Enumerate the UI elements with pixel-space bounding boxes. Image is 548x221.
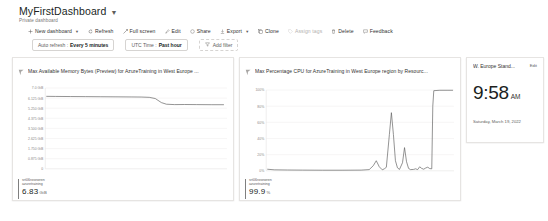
time-range-filter[interactable]: UTC Time : Past hour (125, 39, 187, 51)
auto-refresh-value: Every 5 minutes (70, 42, 108, 48)
pin-icon (245, 62, 252, 80)
auto-refresh-label: Auto refresh : (38, 42, 68, 48)
edit-button[interactable]: Edit (165, 28, 181, 34)
tile-header: Max Available Memory Bytes (Preview) for… (13, 58, 233, 82)
edit-label: Edit (172, 28, 181, 34)
page-header: MyFirstDashboard ▼ Private dashboard (0, 0, 548, 23)
chevron-down-icon[interactable]: ▼ (75, 29, 79, 34)
share-label: Share (197, 28, 211, 34)
svg-text:20%: 20% (257, 153, 264, 157)
clock-title: W. Europe Stand... (473, 63, 515, 69)
cpu-chart-plot[interactable]: 100% 80% 60% 40% 20% 0% (242, 82, 456, 175)
legend-value-number: 6.83 (22, 187, 38, 196)
assign-tags-label: Assign tags (295, 28, 322, 34)
clone-icon (258, 29, 263, 34)
svg-text:0.875 GiB: 0.875 GiB (28, 157, 44, 161)
export-label: Export (227, 28, 242, 34)
share-icon (190, 29, 195, 34)
clock-date: Saturday, March 19, 2022 (473, 119, 537, 124)
legend-value-number: 99.9 (249, 187, 265, 196)
tile-title: Max Percentage CPU for AzureTraining in … (255, 68, 428, 74)
clock-header: W. Europe Stand... Edit (473, 63, 537, 69)
svg-text:5.250 GiB: 5.250 GiB (28, 107, 44, 111)
svg-text:0%: 0% (259, 169, 264, 173)
feedback-label: Feedback (370, 28, 393, 34)
svg-text:60%: 60% (257, 121, 264, 125)
memory-chart-legend: srt06rosewren azuretraining 6.83GiB (13, 176, 233, 200)
delete-button[interactable]: Delete (331, 28, 353, 34)
tile-clock[interactable]: W. Europe Stand... Edit 9:58AM Saturday,… (466, 57, 544, 143)
new-dashboard-label: New dashboard (35, 28, 72, 34)
new-dashboard-button[interactable]: New dashboard ▼ (28, 28, 79, 34)
svg-text:40%: 40% (257, 137, 264, 141)
share-button[interactable]: Share (190, 28, 211, 34)
clone-label: Clone (265, 28, 279, 34)
svg-text:3.500 GiB: 3.500 GiB (28, 127, 44, 131)
edit-icon (165, 29, 170, 34)
refresh-label: Refresh (95, 28, 114, 34)
delete-icon (331, 29, 336, 34)
plus-icon (28, 29, 33, 34)
dashboard-tiles: Max Available Memory Bytes (Preview) for… (0, 57, 548, 201)
legend-value-unit: % (266, 190, 270, 195)
time-range-value: Past hour (159, 42, 182, 48)
svg-text:6.125 GiB: 6.125 GiB (28, 97, 44, 101)
fullscreen-icon (123, 29, 128, 34)
svg-text:7.0 GiB: 7.0 GiB (32, 86, 44, 90)
legend-value-unit: GiB (39, 190, 47, 195)
auto-refresh-filter[interactable]: Auto refresh : Every 5 minutes (32, 39, 114, 51)
page-title: MyFirstDashboard (19, 5, 106, 17)
feedback-icon (363, 29, 368, 34)
add-filter-label: Add filter (213, 42, 233, 48)
feedback-button[interactable]: Feedback (363, 28, 393, 34)
tag-icon (288, 29, 293, 34)
legend-value: 6.83GiB (22, 187, 228, 196)
tile-cpu-chart[interactable]: Max Percentage CPU for AzureTraining in … (239, 57, 461, 201)
legend-color-swatch (18, 179, 19, 199)
memory-chart-plot[interactable]: 7.0 GiB 6.125 GiB 5.250 GiB 4.375 GiB 3.… (15, 82, 229, 175)
svg-text:1.750 GiB: 1.750 GiB (28, 147, 44, 151)
full-screen-button[interactable]: Full screen (123, 28, 156, 34)
svg-text:4.375 GiB: 4.375 GiB (28, 117, 44, 121)
clock-time-value: 9:58 (473, 82, 509, 103)
memory-chart-svg: 7.0 GiB 6.125 GiB 5.250 GiB 4.375 GiB 3.… (15, 82, 229, 175)
tile-title: Max Available Memory Bytes (Preview) for… (28, 68, 199, 74)
full-screen-label: Full screen (130, 28, 156, 34)
export-button[interactable]: Export ▼ (220, 28, 249, 34)
cpu-chart-legend: srt06rosewren azuretraining 99.9% (240, 176, 460, 200)
legend-color-swatch (245, 179, 246, 199)
filter-bar: Auto refresh : Every 5 minutes UTC Time … (0, 39, 548, 51)
assign-tags-button[interactable]: Assign tags (288, 28, 322, 34)
dashboard-title-row[interactable]: MyFirstDashboard ▼ (19, 5, 548, 17)
svg-text:80%: 80% (257, 105, 264, 109)
export-icon (220, 29, 225, 34)
tile-header: Max Percentage CPU for AzureTraining in … (240, 58, 460, 82)
svg-text:0: 0 (41, 167, 43, 171)
command-bar: New dashboard ▼ Refresh Full screen Edit… (0, 23, 548, 38)
pin-icon (18, 62, 25, 80)
svg-text:100%: 100% (255, 88, 264, 92)
clone-button[interactable]: Clone (258, 28, 279, 34)
tile-memory-chart[interactable]: Max Available Memory Bytes (Preview) for… (12, 57, 234, 201)
time-range-label: UTC Time : (131, 42, 156, 48)
add-filter-button[interactable]: Add filter (199, 39, 239, 51)
refresh-button[interactable]: Refresh (88, 28, 114, 34)
clock-ampm: AM (511, 93, 521, 100)
refresh-icon (88, 29, 93, 34)
legend-value: 99.9% (249, 187, 455, 196)
chevron-down-icon[interactable]: ▼ (245, 29, 249, 34)
clock-time: 9:58AM (473, 82, 537, 104)
filter-icon (205, 42, 210, 48)
cpu-chart-svg: 100% 80% 60% 40% 20% 0% (242, 82, 456, 175)
clock-edit-button[interactable]: Edit (530, 63, 537, 68)
delete-label: Delete (338, 28, 353, 34)
chevron-down-icon[interactable]: ▼ (110, 9, 117, 16)
svg-text:2.625 GiB: 2.625 GiB (28, 137, 44, 141)
